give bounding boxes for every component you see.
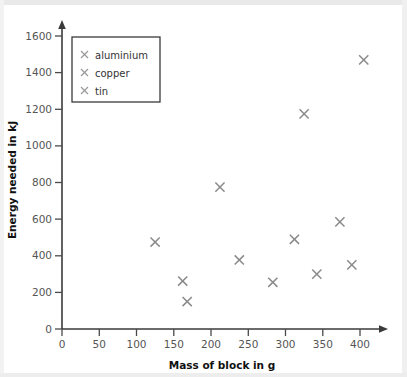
data-point-marker-x-icon [300,109,309,118]
legend-label: aluminium [95,50,148,61]
x-axis-title: Mass of block in g [169,359,276,371]
data-point-marker-x-icon [178,276,187,285]
y-tick-label: 600 [32,213,52,225]
data-point-marker-x-icon [347,260,356,269]
scatter-chart-figure: 0 200 400 600 800 1000 1200 1400 1600 0 … [0,0,407,377]
data-point-marker-x-icon [359,55,368,64]
chart-svg: 0 200 400 600 800 1000 1200 1400 1600 0 … [0,0,407,377]
y-axis-ticks: 0 200 400 600 800 1000 1200 1400 1600 [25,30,62,335]
x-tick-label: 250 [238,338,258,350]
x-tick-label: 50 [93,338,106,350]
y-tick-label: 800 [32,176,52,188]
x-tick-label: 350 [313,338,333,350]
x-tick-label: 0 [59,338,66,350]
data-point-marker-x-icon [290,235,299,244]
x-tick-label: 100 [126,338,146,350]
legend-label: copper [95,68,130,79]
legend: aluminium copper tin [72,37,160,102]
y-tick-label: 1600 [25,30,52,42]
y-tick-label: 0 [45,323,52,335]
y-tick-label: 200 [32,286,52,298]
y-tick-label: 1400 [25,66,52,78]
legend-label: tin [95,86,108,97]
data-point-marker-x-icon [183,297,192,306]
x-axis-ticks: 0 50 100 150 200 250 300 350 400 [59,329,370,350]
x-tick-label: 150 [164,338,184,350]
data-point-marker-x-icon [335,217,344,226]
y-tick-label: 1000 [25,139,52,151]
x-tick-label: 400 [350,338,370,350]
y-axis-arrow-icon [58,20,66,29]
data-point-marker-x-icon [312,269,321,278]
y-axis [58,20,66,329]
y-tick-label: 1200 [25,103,52,115]
data-point-marker-x-icon [235,255,244,264]
y-axis-title: Energy needed in kJ [6,121,18,239]
data-point-marker-x-icon [151,237,160,246]
data-point-marker-x-icon [215,182,224,191]
data-point-layer [151,55,369,306]
x-axis-arrow-icon [379,325,388,333]
x-tick-label: 300 [275,338,295,350]
y-tick-label: 400 [32,249,52,261]
x-axis [62,325,388,333]
data-point-marker-x-icon [268,278,277,287]
x-tick-label: 200 [201,338,221,350]
